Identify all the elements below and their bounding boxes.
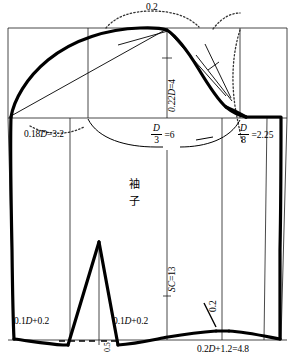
label-cap-height: 0.22D=4 (168, 79, 178, 112)
fraction-d-over-3: D 3 (151, 124, 162, 145)
cap-chord-guides (11, 30, 232, 116)
fraction-numerator: D (151, 124, 162, 134)
sleeve-outline-main (11, 28, 281, 345)
fraction-result: =2.25 (249, 130, 273, 140)
cjk-line-2: 子 (129, 195, 140, 208)
outline-vent-leg-right (99, 242, 118, 345)
outline-vent-leg-left (68, 242, 99, 345)
outline-underarm-seam-right (246, 117, 281, 339)
guide-panel-line-far-right (264, 118, 267, 340)
curve-front-armhole-scoop-left (88, 119, 156, 147)
reference-dotted-curves (30, 11, 242, 142)
curve-front-armhole-scoop-right (180, 120, 240, 147)
cjk-line-1: 袖 (129, 178, 140, 191)
fraction-result: =6 (162, 130, 175, 140)
label-cuff-rise: 0.2 (209, 300, 219, 312)
label-sleeve-length: SC=13 (168, 267, 178, 292)
label-back-notch-fraction: D 8 =2.25 (238, 124, 273, 145)
outline-sleeve-cap-curve (11, 28, 246, 117)
outline-underarm-seam-left (11, 117, 14, 339)
label-cuff-width: 0.2D+1.2=4.8 (197, 345, 249, 355)
label-armhole-depth-fraction: D 3 =6 (151, 124, 175, 145)
dotted-cap-ease-arc (106, 11, 199, 28)
pattern-drawing-canvas (0, 0, 295, 360)
label-hem-left: 0.1D+0.2 (14, 317, 49, 327)
label-front-notch: 0.18D=3.2 (24, 130, 64, 140)
fraction-denominator: 8 (239, 135, 248, 145)
label-piece-name-cjk: 袖子 (129, 176, 140, 210)
fraction-numerator: D (238, 124, 249, 134)
label-vent-depth: 0.5 (104, 342, 112, 352)
construction-guide-lines (8, 28, 287, 345)
dotted-cap-ease-arc-right (213, 13, 240, 29)
fraction-denominator: 3 (152, 135, 161, 145)
chord-front-cap-top (118, 31, 168, 45)
label-hem-mid: 0.1D+0.2 (113, 317, 148, 327)
label-cap-ease-top: 0.2 (146, 3, 158, 13)
sleeve-pattern-figure: 0.2 0.22D=4 0.18D=3.2 D 3 =6 D 8 =2.25 袖… (0, 0, 295, 360)
outline-hem-right (229, 331, 280, 339)
fraction-d-over-8: D 8 (238, 124, 249, 145)
curve-armhole-join-right (196, 137, 213, 140)
